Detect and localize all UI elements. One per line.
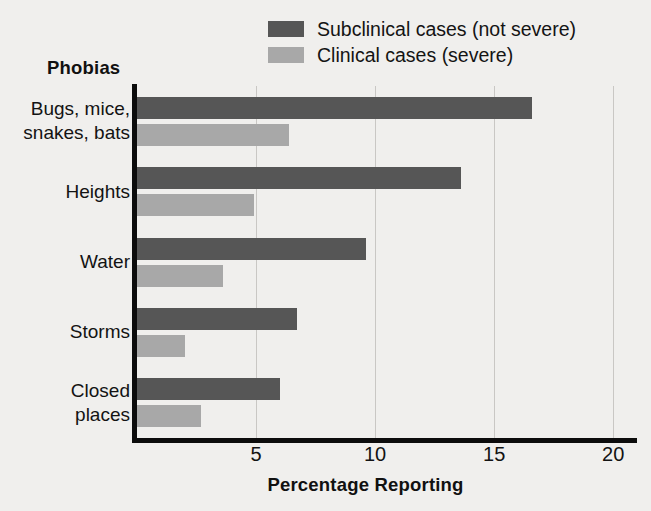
- x-tick-label-15: 15: [483, 443, 505, 466]
- gridline-10: [375, 86, 376, 438]
- category-label-line: snakes, bats: [0, 121, 130, 145]
- legend-item-clinical: Clinical cases (severe): [268, 42, 638, 68]
- category-label-2: Water: [0, 250, 130, 274]
- category-label-0: Bugs, mice,snakes, bats: [0, 97, 130, 145]
- legend-swatch-subclinical: [268, 21, 304, 37]
- y-axis-title: Phobias: [47, 57, 120, 79]
- chart-page: Subclinical cases (not severe) Clinical …: [0, 0, 651, 511]
- category-label-1: Heights: [0, 180, 130, 204]
- bar-clinical-0: [137, 124, 289, 146]
- bar-clinical-1: [137, 194, 254, 216]
- category-label-4: Closedplaces: [0, 379, 130, 427]
- bar-subclinical-2: [137, 238, 366, 260]
- legend-label-subclinical: Subclinical cases (not severe): [317, 18, 576, 40]
- category-label-line: Water: [0, 250, 130, 274]
- x-tick-label-20: 20: [602, 443, 624, 466]
- legend-label-clinical: Clinical cases (severe): [317, 44, 513, 66]
- bar-subclinical-1: [137, 167, 461, 189]
- category-label-line: Storms: [0, 320, 130, 344]
- bar-subclinical-3: [137, 308, 297, 330]
- gridline-20: [613, 86, 614, 438]
- plot-area: [137, 86, 637, 438]
- category-label-line: Heights: [0, 180, 130, 204]
- bar-clinical-3: [137, 335, 185, 357]
- x-axis-ticks: 5101520: [137, 443, 637, 469]
- bar-clinical-2: [137, 265, 223, 287]
- gridline-15: [494, 86, 495, 438]
- x-tick-label-5: 5: [250, 443, 261, 466]
- category-label-line: Bugs, mice,: [0, 97, 130, 121]
- x-axis-title: Percentage Reporting: [0, 474, 651, 496]
- legend-swatch-clinical: [268, 47, 304, 63]
- category-label-3: Storms: [0, 320, 130, 344]
- bar-subclinical-4: [137, 378, 280, 400]
- category-axis-labels: Bugs, mice,snakes, batsHeightsWaterStorm…: [0, 86, 130, 438]
- category-label-line: Closed: [0, 379, 130, 403]
- bar-subclinical-0: [137, 97, 532, 119]
- bar-clinical-4: [137, 405, 201, 427]
- legend-item-subclinical: Subclinical cases (not severe): [268, 16, 638, 42]
- chart-legend: Subclinical cases (not severe) Clinical …: [268, 16, 638, 68]
- category-label-line: places: [0, 403, 130, 427]
- x-tick-label-10: 10: [364, 443, 386, 466]
